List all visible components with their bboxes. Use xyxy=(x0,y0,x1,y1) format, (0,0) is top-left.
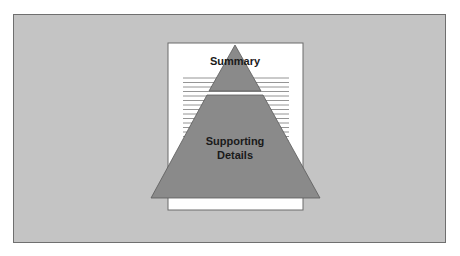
summary-label: Summary xyxy=(210,55,261,67)
pyramid-diagram: Summary Supporting Details xyxy=(0,0,460,256)
supporting-label-line2: Details xyxy=(217,149,253,161)
supporting-label-line1: Supporting xyxy=(206,135,265,147)
